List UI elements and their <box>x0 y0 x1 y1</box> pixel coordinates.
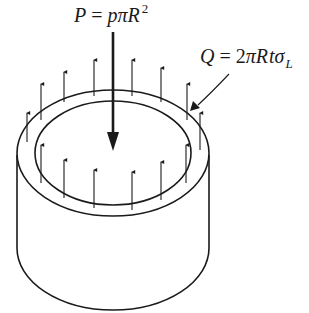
wall-label-sigma: σ <box>275 45 286 67</box>
arrow-down-icon <box>107 132 119 151</box>
load-label-exp: 2 <box>142 1 149 16</box>
load-label-R: R <box>127 4 140 26</box>
central-load-arrow <box>107 32 119 151</box>
cylinder-diagram: P = pπR2 Q = 2πRtσL <box>0 0 309 313</box>
arrow-pointer-icon <box>190 101 200 111</box>
wall-label-lhs: Q <box>200 45 215 67</box>
cylinder-body <box>17 155 209 310</box>
load-label: P = pπR2 <box>73 1 148 27</box>
wall-label-eq: = <box>214 45 235 67</box>
cylinder-bottom-curve <box>17 248 209 310</box>
q-leader-arrow <box>190 74 229 111</box>
wall-label-R: R <box>255 45 268 67</box>
wall-label-sub: L <box>284 56 292 71</box>
load-label-eq: = <box>86 4 107 26</box>
wall-label-two: 2 <box>236 45 246 67</box>
load-label-p: p <box>106 4 118 27</box>
wall-force-label: Q = 2πRtσL <box>200 45 293 71</box>
load-label-lhs: P <box>73 4 86 26</box>
